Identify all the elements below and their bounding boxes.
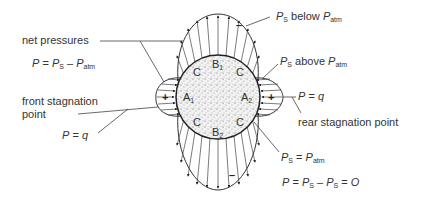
- label-ps-above-patm: PS above Patm: [280, 55, 347, 71]
- label-zero-equation: P = PS – PS = O: [282, 176, 359, 192]
- label-rear-q: P = q: [298, 90, 324, 103]
- leader-above: [262, 64, 278, 79]
- leader-front-stag: [78, 107, 158, 114]
- minus-bottom: –: [229, 169, 235, 181]
- minus-top: –: [236, 19, 242, 31]
- plus-front: +: [162, 91, 168, 103]
- label-front-q: P = q: [62, 129, 88, 142]
- point-C-bottomleft: C: [193, 116, 201, 129]
- point-B1: B1: [212, 58, 223, 74]
- label-front-stagnation-1: front stagnation: [22, 95, 98, 108]
- point-C-topright: C: [236, 66, 244, 79]
- label-net-pressures: net pressures: [22, 34, 89, 47]
- plus-rear: +: [268, 91, 274, 103]
- label-ps-equals-patm: PS = Patm: [281, 151, 325, 167]
- label-rear-stagnation: rear stagnation point: [298, 116, 398, 129]
- label-ps-below-patm: PS below Patm: [276, 10, 342, 26]
- point-A2: A2: [241, 91, 252, 107]
- leader-below: [246, 17, 270, 26]
- point-C-bottomright: C: [236, 116, 244, 129]
- point-C-topleft: C: [193, 66, 201, 79]
- label-front-stagnation-2: point: [22, 108, 46, 121]
- point-A1: A1: [183, 91, 194, 107]
- leader-front-q: [98, 109, 128, 133]
- point-B2: B2: [212, 126, 223, 142]
- label-net-equation: P = PS – Patm: [32, 57, 95, 73]
